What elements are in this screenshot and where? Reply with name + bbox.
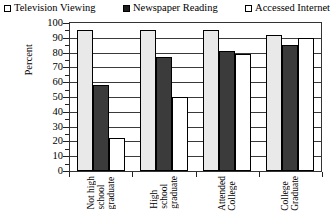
bar[interactable]: [298, 38, 314, 171]
bar-group: [70, 23, 133, 171]
x-label-word: College: [280, 176, 290, 211]
bar[interactable]: [140, 30, 156, 171]
x-label-word: graduate: [106, 176, 116, 210]
x-label-word: Not high: [86, 176, 96, 210]
y-tick-label: 60: [53, 77, 64, 87]
x-tick-mark: [322, 172, 323, 177]
x-label-word: College: [227, 176, 237, 211]
x-label-cell: Highschoolgraduate: [132, 176, 195, 222]
y-tick-label: 20: [53, 136, 64, 146]
legend-swatch-icon-newspaper-reading: [123, 5, 130, 12]
y-axis-title: Percent: [23, 62, 34, 76]
y-tick-label: 40: [53, 107, 64, 117]
x-label-high-school-graduate: Highschoolgraduate: [149, 176, 179, 209]
bar[interactable]: [109, 138, 125, 171]
legend-swatch-icon-accessed-internet: [245, 5, 252, 12]
bar[interactable]: [203, 30, 219, 171]
y-tick-label: 80: [53, 48, 64, 58]
x-label-cell: CollegeGraduate: [259, 176, 322, 222]
y-tick-label: 10: [53, 151, 64, 161]
x-label-not-high-school-graduate: Not highschoolgraduate: [86, 176, 116, 210]
bar-groups: [70, 23, 321, 171]
legend-item-television-viewing: Television Viewing: [4, 2, 96, 14]
bar-group: [258, 23, 321, 171]
y-tick-label: 90: [53, 33, 64, 43]
bar[interactable]: [172, 97, 188, 171]
x-label-word: High: [149, 176, 159, 209]
bar-group: [196, 23, 259, 171]
legend-item-newspaper-reading: Newspaper Reading: [123, 2, 218, 14]
y-axis-ticks: 1009080706050403020100: [40, 22, 69, 172]
y-tick-label: 30: [53, 122, 64, 132]
chart-screenshot: Television Viewing Newspaper Reading Acc…: [0, 0, 333, 222]
y-tick-label: 100: [47, 18, 63, 28]
legend-label-television-viewing: Television Viewing: [14, 2, 96, 14]
bar-group: [133, 23, 196, 171]
legend-label-accessed-internet: Accessed Internet: [255, 2, 330, 14]
x-axis-labels: Not highschoolgraduateHighschoolgraduate…: [69, 176, 322, 222]
bar[interactable]: [156, 57, 172, 171]
y-tick-label: 50: [53, 92, 64, 102]
bar[interactable]: [282, 45, 298, 171]
bar[interactable]: [77, 30, 93, 171]
x-label-attended-college: AttendedCollege: [217, 176, 237, 211]
legend-label-newspaper-reading: Newspaper Reading: [133, 2, 218, 14]
bar[interactable]: [266, 35, 282, 171]
chart-legend: Television Viewing Newspaper Reading Acc…: [4, 1, 330, 15]
x-label-word: school: [159, 176, 169, 209]
x-label-word: school: [96, 176, 106, 210]
y-tick-label: 70: [53, 62, 64, 72]
x-label-word: Graduate: [290, 176, 300, 211]
bar[interactable]: [235, 54, 251, 171]
bar[interactable]: [219, 51, 235, 171]
x-label-cell: Not highschoolgraduate: [69, 176, 132, 222]
x-label-college-graduate: CollegeGraduate: [280, 176, 300, 211]
x-label-word: graduate: [169, 176, 179, 209]
legend-item-accessed-internet: Accessed Internet: [245, 2, 330, 14]
x-label-cell: AttendedCollege: [196, 176, 259, 222]
bar[interactable]: [93, 85, 109, 171]
x-label-word: Attended: [217, 176, 227, 211]
legend-swatch-icon-television-viewing: [4, 5, 11, 12]
